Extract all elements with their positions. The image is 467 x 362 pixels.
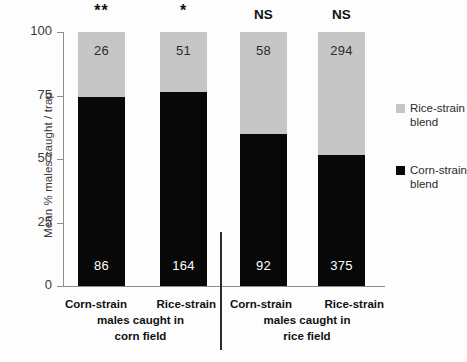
segment-rice-strain-blend-1: 51 [160, 32, 207, 92]
segment-rice-strain-blend-0: 26 [78, 32, 125, 97]
group2-line3: rice field [228, 328, 386, 344]
group-caption-rice-field: Corn-strain Rice-strain males caught in … [228, 296, 386, 344]
legend-label-corn-strain-blend-line1: Corn-strain [410, 163, 467, 177]
group-divider [220, 232, 222, 350]
bar-value-bottom-0: 86 [78, 258, 125, 273]
segment-corn-strain-blend-1: 164 [160, 92, 207, 286]
bar-3[interactable]: NS 294 375 [318, 32, 365, 286]
y-tick-mark [57, 96, 63, 97]
legend: Rice-strain blend Corn-strain blend [396, 101, 467, 225]
group1-line2: males caught in [63, 312, 218, 328]
legend-swatch-rice-strain-blend [396, 104, 405, 113]
stacked-bar-chart: Mean % males caught / trap 100 75 50 25 … [0, 0, 467, 362]
y-tick-mark [57, 32, 63, 33]
group-caption-corn-field: Corn-strain Rice-strain males caught in … [63, 296, 218, 344]
bar-value-bottom-3: 375 [318, 258, 365, 273]
bar-0[interactable]: ** 26 86 [78, 32, 125, 286]
plot-area: 100 75 50 25 0 ** 26 86 [63, 32, 385, 286]
segment-rice-strain-blend-2: 58 [240, 32, 287, 134]
y-tick-label-25: 25 [8, 214, 52, 229]
group1-right-label: Rice-strain [157, 296, 216, 312]
legend-label-rice-strain-blend-line1: Rice-strain [410, 101, 467, 115]
bar-value-bottom-1: 164 [160, 258, 207, 273]
y-tick-mark [57, 159, 63, 160]
significance-marker-3: NS [318, 7, 365, 22]
segment-rice-strain-blend-3: 294 [318, 32, 365, 155]
group2-line2: males caught in [228, 312, 386, 328]
legend-entry-corn-strain-blend[interactable]: Corn-strain blend [396, 163, 467, 191]
significance-marker-0: ** [78, 2, 125, 20]
x-axis-spine [63, 286, 385, 287]
segment-corn-strain-blend-3: 375 [318, 155, 365, 286]
legend-label-rice-strain-blend-line2: blend [410, 115, 467, 129]
legend-label-corn-strain-blend-line2: blend [410, 177, 467, 191]
bar-value-bottom-2: 92 [240, 258, 287, 273]
bar-1[interactable]: * 51 164 [160, 32, 207, 286]
y-tick-label-50: 50 [8, 150, 52, 165]
y-tick-mark [57, 286, 63, 287]
y-axis-label: Mean % males caught / trap [42, 35, 54, 295]
segment-corn-strain-blend-2: 92 [240, 134, 287, 286]
bar-2[interactable]: NS 58 92 [240, 32, 287, 286]
bar-value-top-0: 26 [78, 43, 125, 58]
y-tick-label-100: 100 [8, 23, 52, 38]
bar-value-top-1: 51 [160, 43, 207, 58]
segment-corn-strain-blend-0: 86 [78, 97, 125, 286]
legend-entry-rice-strain-blend[interactable]: Rice-strain blend [396, 101, 467, 129]
bar-value-top-2: 58 [240, 43, 287, 58]
significance-marker-2: NS [240, 7, 287, 22]
y-axis-spine [63, 32, 64, 287]
group2-left-label: Corn-strain [230, 296, 292, 312]
group2-right-label: Rice-strain [325, 296, 384, 312]
significance-marker-1: * [160, 2, 207, 20]
y-tick-mark [57, 223, 63, 224]
legend-swatch-corn-strain-blend [396, 166, 405, 175]
group1-line3: corn field [63, 328, 218, 344]
bar-value-top-3: 294 [318, 43, 365, 58]
group1-left-label: Corn-strain [65, 296, 127, 312]
y-tick-label-0: 0 [8, 277, 52, 292]
y-tick-label-75: 75 [8, 87, 52, 102]
